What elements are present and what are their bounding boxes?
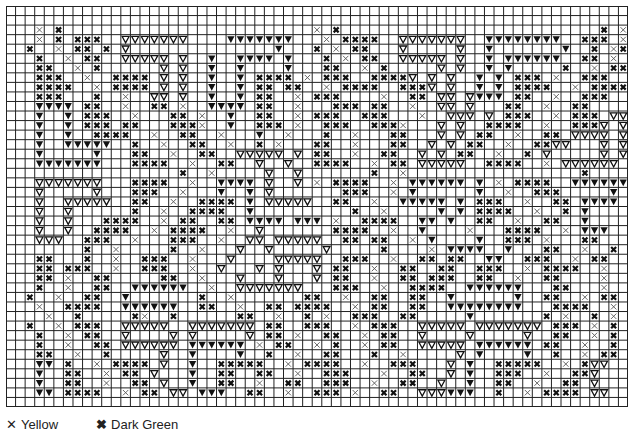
knitting-chart-grid [6, 6, 628, 407]
dark-green-x-icon: ✖ [96, 417, 107, 432]
legend-label-dark-green: Dark Green [111, 417, 178, 432]
legend: ✕ Yellow ✖ Dark Green [6, 417, 178, 432]
legend-label-yellow: Yellow [21, 417, 58, 432]
chart-svg [6, 6, 628, 407]
legend-item-dark-green: ✖ Dark Green [96, 417, 178, 432]
legend-item-yellow: ✕ Yellow [6, 417, 58, 432]
yellow-x-icon: ✕ [6, 417, 17, 432]
